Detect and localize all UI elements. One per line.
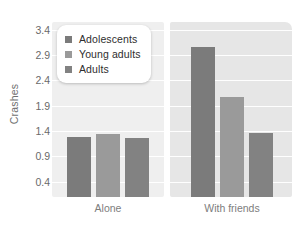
y-axis-tick-label: 2.9: [35, 49, 50, 61]
bar-adults-alone: [125, 138, 149, 197]
legend-item-label: Adolescents: [79, 33, 137, 45]
legend-item-label: Young adults: [79, 48, 141, 60]
legend: Adolescents Young adults Adults: [57, 25, 151, 83]
y-axis-tick-label: 1.9: [35, 100, 50, 112]
y-axis-tick-label: 3.4: [35, 24, 50, 36]
bar-chart: Crashes 3.42.92.41.91.40.90.4 AloneWith …: [0, 0, 297, 234]
bar-adults-with-friends: [249, 133, 273, 197]
x-axis-tick-labels: AloneWith friends: [52, 202, 292, 222]
legend-item: Adults: [65, 62, 141, 76]
legend-item-label: Adults: [79, 63, 109, 75]
y-axis-tick-label: 0.9: [35, 150, 50, 162]
bar-adolescents-alone: [67, 137, 91, 197]
legend-item: Young adults: [65, 47, 141, 61]
legend-swatch-icon: [65, 51, 72, 58]
x-axis-tick-label: Alone: [95, 202, 122, 214]
y-axis-tick-label: 2.4: [35, 74, 50, 86]
bar-young-adults-alone: [96, 134, 120, 197]
legend-item: Adolescents: [65, 32, 141, 46]
y-axis-tick-label: 0.4: [35, 176, 50, 188]
x-axis-tick-label: With friends: [204, 202, 259, 214]
bar-young-adults-with-friends: [220, 97, 244, 197]
bar-adolescents-with-friends: [191, 47, 215, 197]
y-axis-tick-labels: 3.42.92.41.91.40.90.4: [26, 24, 50, 194]
legend-swatch-icon: [65, 66, 72, 73]
legend-swatch-icon: [65, 36, 72, 43]
y-axis-title: Crashes: [8, 66, 20, 142]
y-axis-tick-label: 1.4: [35, 125, 50, 137]
